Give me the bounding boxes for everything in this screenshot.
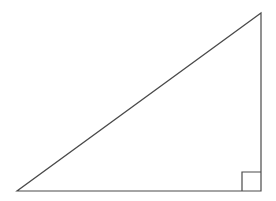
diagram-background xyxy=(0,0,276,201)
figure-canvas xyxy=(0,0,276,201)
right-triangle-svg xyxy=(0,0,276,201)
